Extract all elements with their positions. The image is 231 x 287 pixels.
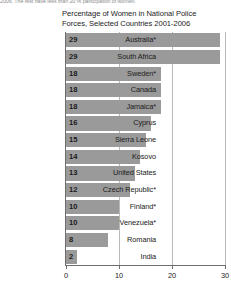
x-tick-20 <box>172 265 173 269</box>
x-tick-label-0: 0 <box>64 271 68 280</box>
category-label: Finland* <box>36 200 156 214</box>
category-label: India <box>36 250 156 264</box>
bar-row[interactable]: 2India <box>66 250 225 264</box>
bar-row[interactable]: 10Finland* <box>66 200 225 214</box>
x-tick-0 <box>66 265 67 269</box>
category-label: Sweden* <box>36 67 156 81</box>
category-label: Australia* <box>36 33 156 47</box>
page-body-text-fragment: 2006. The rest have less than 20 % parti… <box>0 0 231 5</box>
bar-row[interactable]: 12Czech Republic* <box>66 183 225 197</box>
bar-row[interactable]: 13United States <box>66 166 225 180</box>
category-label: Cyprus <box>36 116 156 130</box>
bar-row[interactable]: 29South Africa <box>66 50 225 64</box>
x-tick-10 <box>119 265 120 269</box>
bar-row[interactable]: 15Sierra Leone <box>66 133 225 147</box>
category-label: South Africa <box>36 50 156 64</box>
category-label: Jamaica* <box>36 100 156 114</box>
chart-title-line-1: Percentage of Women in National Police <box>62 9 228 19</box>
bar-row[interactable]: 10Venezuela* <box>66 216 225 230</box>
chart-title-line-2: Forces, Selected Countries 2001-2006 <box>62 19 228 29</box>
plot-area: 29Australia*29South Africa18Sweden*18Can… <box>66 32 225 265</box>
x-axis-line <box>65 265 225 266</box>
bar-row[interactable]: 29Australia* <box>66 33 225 47</box>
bar-row[interactable]: 16Cyprus <box>66 116 225 130</box>
category-label: United States <box>36 166 156 180</box>
chart-title: Percentage of Women in National Police F… <box>62 9 228 29</box>
x-tick-label-30: 30 <box>221 271 229 280</box>
bar-row[interactable]: 14Kosovo <box>66 150 225 164</box>
category-label: Czech Republic* <box>36 183 156 197</box>
category-label: Romania <box>36 233 156 247</box>
chart-figure: Percentage of Women in National Police F… <box>0 7 231 287</box>
gridline-30 <box>225 32 226 265</box>
bar-row[interactable]: 18Sweden* <box>66 67 225 81</box>
bar-row[interactable]: 18Canada <box>66 83 225 97</box>
category-label: Canada <box>36 83 156 97</box>
category-label: Venezuela* <box>36 216 156 230</box>
x-tick-label-10: 10 <box>115 271 123 280</box>
bar-row[interactable]: 18Jamaica* <box>66 100 225 114</box>
category-label: Sierra Leone <box>36 133 156 147</box>
x-tick-30 <box>225 265 226 269</box>
x-tick-label-20: 20 <box>168 271 176 280</box>
bar-row[interactable]: 8Romania <box>66 233 225 247</box>
category-label: Kosovo <box>36 150 156 164</box>
